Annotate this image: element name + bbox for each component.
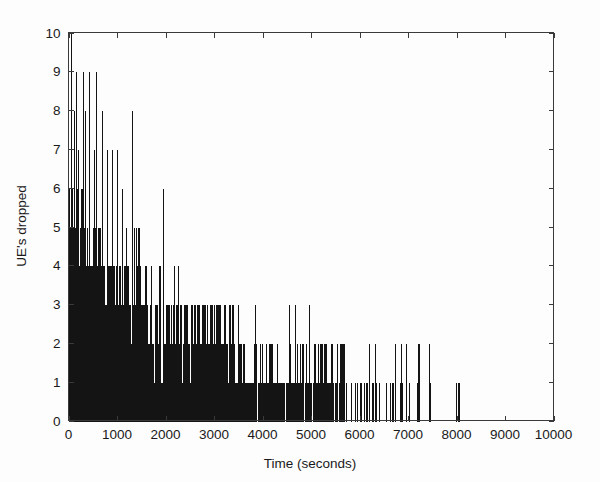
y-tick-label: 5 <box>53 220 61 235</box>
figure-canvas: 0100020003000400050006000700080009000100… <box>0 0 600 482</box>
y-tick-label: 6 <box>53 181 61 196</box>
y-tick-label: 3 <box>53 297 61 312</box>
x-tick-label: 3000 <box>199 427 229 442</box>
y-axis-label: UE's dropped <box>14 185 29 266</box>
y-tick-label: 7 <box>53 142 61 157</box>
y-tick-label: 1 <box>53 375 61 390</box>
y-tick-label: 8 <box>53 103 61 118</box>
x-tick-label: 0 <box>65 427 73 442</box>
x-tick-labels: 0100020003000400050006000700080009000100… <box>65 427 573 442</box>
chart-plot: 0100020003000400050006000700080009000100… <box>0 0 600 482</box>
x-tick-label: 10000 <box>535 427 573 442</box>
y-tick-label: 4 <box>53 258 61 273</box>
y-tick-label: 2 <box>53 336 61 351</box>
y-tick-label: 10 <box>45 26 60 41</box>
x-axis-label: Time (seconds) <box>264 456 357 471</box>
x-tick-label: 5000 <box>296 427 326 442</box>
x-tick-label: 8000 <box>441 427 471 442</box>
x-tick-label: 1000 <box>102 427 132 442</box>
x-tick-label: 4000 <box>247 427 277 442</box>
y-tick-labels: 012345678910 <box>45 26 61 429</box>
y-tick-label: 9 <box>53 64 61 79</box>
x-tick-label: 2000 <box>150 427 180 442</box>
x-tick-label: 9000 <box>490 427 520 442</box>
bar-series <box>70 34 460 422</box>
x-tick-label: 6000 <box>344 427 374 442</box>
y-tick-label: 0 <box>53 414 61 429</box>
x-tick-label: 7000 <box>393 427 423 442</box>
